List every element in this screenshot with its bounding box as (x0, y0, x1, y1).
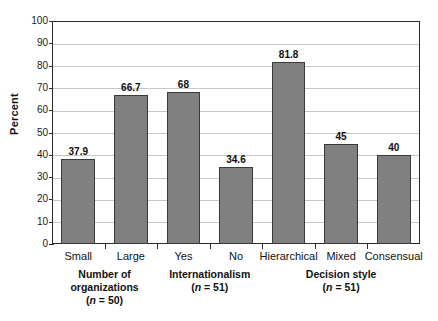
group-sample-size: (n = 51) (248, 281, 434, 294)
bar-value-label: 37.9 (52, 146, 105, 157)
bar-slot: 40 (367, 21, 420, 244)
bar-value-label: 34.6 (210, 154, 263, 165)
y-axis-tick-label: 50 (8, 128, 48, 138)
bar[interactable] (324, 144, 358, 244)
y-axis-tick-label: 0 (8, 239, 48, 249)
bar-slot: 68 (157, 21, 210, 244)
bar-slot: 34.6 (210, 21, 263, 244)
bar-slot: 66.7 (105, 21, 158, 244)
y-axis-tick-label: 30 (8, 172, 48, 182)
bar-value-label: 45 (315, 131, 368, 142)
bar-slot: 81.8 (262, 21, 315, 244)
bar-value-label: 66.7 (105, 82, 158, 93)
bar-slot: 37.9 (52, 21, 105, 244)
bar-value-label: 81.8 (262, 49, 315, 60)
bar[interactable] (114, 95, 148, 244)
y-axis-tick-label: 60 (8, 105, 48, 115)
y-axis-tick-label: 80 (8, 61, 48, 71)
bar[interactable] (61, 159, 95, 244)
y-axis-tick-label: 100 (8, 16, 48, 26)
group-label: Decision style(n = 51) (248, 268, 434, 294)
y-axis-tick-label: 90 (8, 38, 48, 48)
y-axis-tick-label: 10 (8, 217, 48, 227)
bar-chart: Percent 1009080706050403020100 37.966.76… (0, 0, 438, 321)
y-axis-tick-label: 40 (8, 150, 48, 160)
x-axis-category-labels: SmallLargeYesNoHierarchicalMixedConsensu… (52, 249, 420, 265)
bar[interactable] (219, 167, 253, 244)
bar[interactable] (377, 155, 411, 244)
bars-layer: 37.966.76834.681.84540 (52, 21, 420, 244)
bar[interactable] (272, 62, 306, 244)
bar-value-label: 68 (157, 79, 210, 90)
group-sample-size: (n = 50) (38, 294, 171, 307)
y-axis-tick-label: 70 (8, 83, 48, 93)
bar-slot: 45 (315, 21, 368, 244)
group-label-line: Decision style (248, 268, 434, 281)
bar-value-label: 40 (367, 142, 420, 153)
category-label-consensual: Consensual (361, 249, 426, 263)
x-axis-group-labels: Number oforganizations(n = 50)Internatio… (52, 268, 420, 321)
bar[interactable] (167, 92, 201, 244)
y-axis-tick-label: 20 (8, 194, 48, 204)
